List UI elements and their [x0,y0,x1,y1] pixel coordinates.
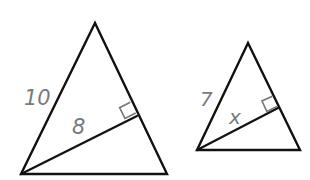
large-triangle: 10 8 [21,23,167,174]
large-side-label: 10 [24,86,51,110]
small-side-label: 7 [200,87,213,111]
large-altitude-label: 8 [72,115,85,139]
small-altitude-label: x [228,105,241,129]
small-triangle: 7 x [197,43,300,150]
similar-triangles-diagram: 10 8 7 x [0,0,310,180]
